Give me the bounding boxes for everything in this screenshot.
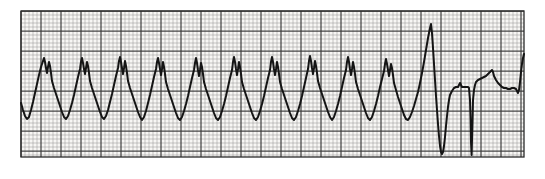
ecg-canvas xyxy=(0,0,545,179)
ecg-figure xyxy=(0,0,545,179)
